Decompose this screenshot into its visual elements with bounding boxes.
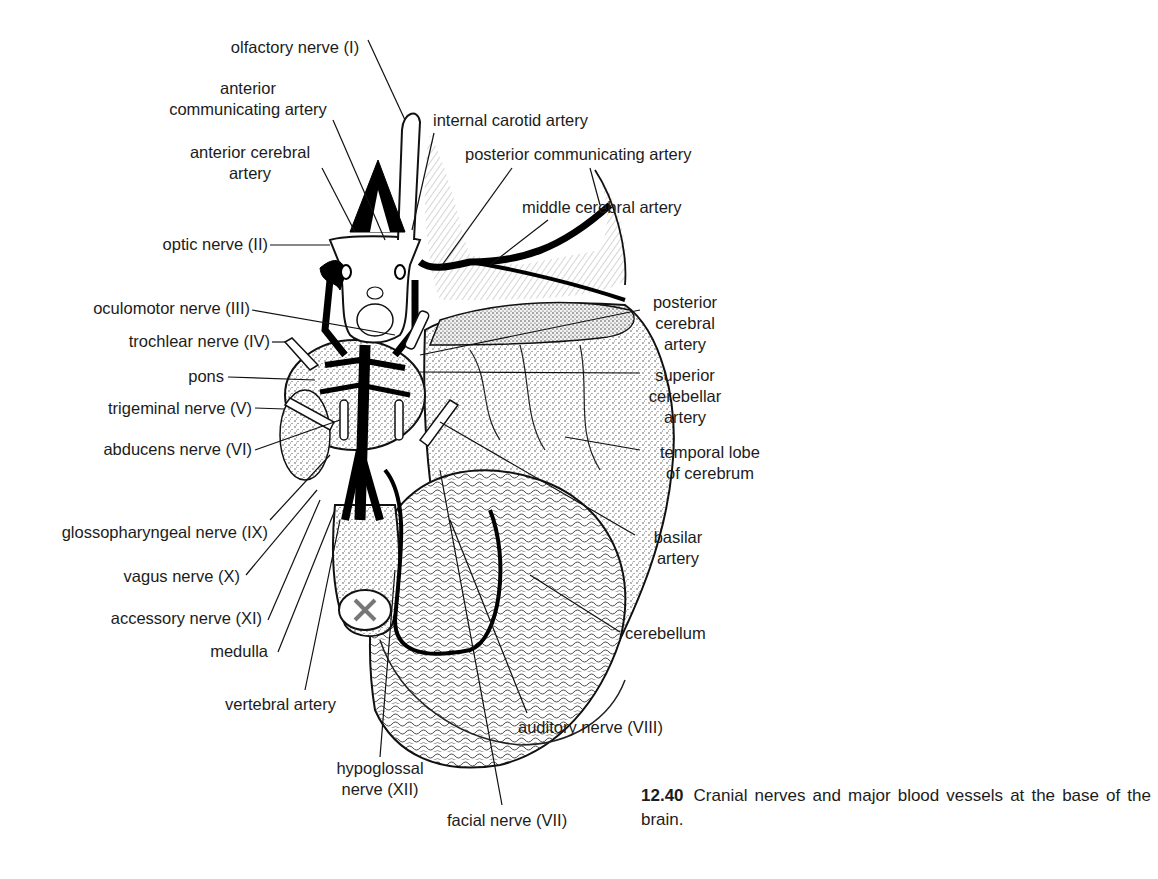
label-line: nerve (XII) (320, 779, 440, 800)
label-posterior-communicating-artery: posterior communicating artery (465, 144, 692, 165)
label-internal-carotid-artery: internal carotid artery (433, 110, 588, 131)
label-line: cerebellar (640, 386, 730, 407)
label-abducens-nerve: abducens nerve (VI) (40, 439, 252, 460)
label-line: of cerebrum (640, 463, 780, 484)
label-anterior-communicating-artery: anterior communicating artery (148, 78, 348, 120)
label-oculomotor-nerve: oculomotor nerve (III) (40, 298, 250, 319)
label-auditory-nerve: auditory nerve (VIII) (518, 717, 663, 738)
figure-caption: 12.40Cranial nerves and major blood vess… (641, 784, 1151, 832)
label-line: anterior cerebral (175, 142, 325, 163)
medulla-shape (333, 505, 399, 636)
label-trochlear-nerve: trochlear nerve (IV) (40, 331, 270, 352)
label-line: basilar (638, 527, 718, 548)
label-line: communicating artery (148, 99, 348, 120)
figure-number: 12.40 (641, 786, 684, 805)
label-vertebral-artery: vertebral artery (225, 694, 336, 715)
label-basilar-artery: basilar artery (638, 527, 718, 569)
label-anterior-cerebral-artery: anterior cerebral artery (175, 142, 325, 184)
label-line: temporal lobe (640, 442, 780, 463)
label-line: hypoglossal (320, 758, 440, 779)
label-line: posterior (645, 292, 725, 313)
label-line: artery (640, 407, 730, 428)
label-hypoglossal-nerve: hypoglossal nerve (XII) (320, 758, 440, 800)
label-pons: pons (150, 366, 224, 387)
label-glossopharyngeal-nerve: glossopharyngeal nerve (IX) (10, 522, 268, 543)
label-olfactory-nerve: olfactory nerve (I) (205, 37, 385, 58)
label-line: artery (638, 548, 718, 569)
label-line: superior (640, 365, 730, 386)
label-middle-cerebral-artery: middle cerebral artery (522, 197, 682, 218)
label-trigeminal-nerve: trigeminal nerve (V) (40, 398, 252, 419)
label-temporal-lobe: temporal lobe of cerebrum (640, 442, 780, 484)
label-superior-cerebellar-artery: superior cerebellar artery (640, 365, 730, 428)
label-line: cerebral (645, 313, 725, 334)
label-line: anterior (148, 78, 348, 99)
label-accessory-nerve: accessory nerve (XI) (40, 608, 262, 629)
label-medulla: medulla (150, 641, 268, 662)
label-optic-nerve: optic nerve (II) (110, 234, 268, 255)
label-cerebellum: cerebellum (625, 623, 706, 644)
label-line: artery (175, 163, 325, 184)
figure-caption-text: Cranial nerves and major blood vessels a… (641, 786, 1151, 829)
label-facial-nerve: facial nerve (VII) (447, 810, 567, 831)
label-vagus-nerve: vagus nerve (X) (60, 566, 240, 587)
label-posterior-cerebral-artery: posterior cerebral artery (645, 292, 725, 355)
label-line: artery (645, 334, 725, 355)
brain-base-figure: olfactory nerve (I) anterior communicati… (0, 0, 1158, 879)
